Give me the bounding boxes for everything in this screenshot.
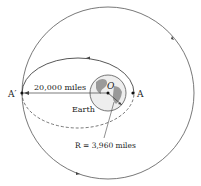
label-radius: R = 3,960 miles <box>75 141 136 150</box>
point-o <box>107 92 110 95</box>
label-a: A <box>136 89 144 99</box>
label-o: O <box>107 81 115 91</box>
orbit-diagram: A′ A O 20,000 miles Earth R = 3,960 mile… <box>0 0 201 186</box>
label-distance: 20,000 miles <box>34 83 86 92</box>
arrow-icon <box>86 57 90 60</box>
label-earth: Earth <box>72 105 95 114</box>
point-a <box>131 91 134 94</box>
point-a-prime <box>20 91 23 94</box>
label-a-prime: A′ <box>7 89 17 99</box>
arrow-icon <box>76 172 80 175</box>
arrow-icon <box>24 91 29 95</box>
